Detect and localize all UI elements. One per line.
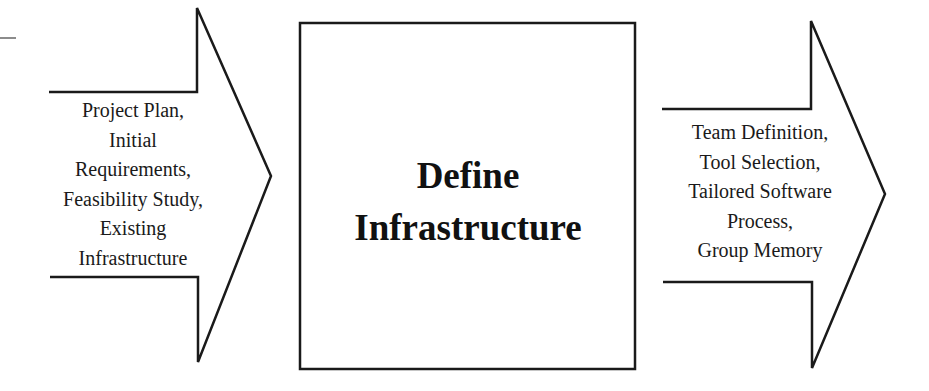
output-line: Tool Selection,: [650, 148, 870, 178]
input-line: Infrastructure: [40, 244, 226, 274]
input-line: Existing: [40, 214, 226, 244]
output-line: Group Memory: [650, 236, 870, 266]
process-line: Define: [300, 150, 636, 202]
output-line: Process,: [650, 207, 870, 237]
output-line: Team Definition,: [650, 118, 870, 148]
input-line: Requirements,: [40, 155, 226, 185]
input-line: Feasibility Study,: [40, 185, 226, 215]
process-box-title: Define Infrastructure: [300, 150, 636, 254]
input-line: Project Plan,: [40, 96, 226, 126]
output-line: Tailored Software: [650, 177, 870, 207]
output-arrow-label: Team Definition, Tool Selection, Tailore…: [650, 118, 870, 266]
input-line: Initial: [40, 126, 226, 156]
input-arrow-label: Project Plan, Initial Requirements, Feas…: [40, 96, 226, 273]
process-line: Infrastructure: [300, 202, 636, 254]
